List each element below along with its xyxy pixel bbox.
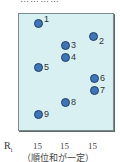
rank-sum-col-2: 15 bbox=[60, 141, 69, 151]
rank-point-label: 7 bbox=[100, 86, 105, 95]
rank-point-label: 1 bbox=[44, 15, 49, 24]
rank-point-4 bbox=[61, 53, 70, 62]
row-label-ri: Ri bbox=[4, 140, 12, 153]
cropped-title-text: ………… bbox=[20, 0, 112, 2]
rank-point-label: 8 bbox=[71, 98, 76, 107]
rank-point-label: 4 bbox=[71, 53, 76, 62]
rank-panel bbox=[18, 13, 114, 131]
rank-point-5 bbox=[34, 63, 43, 72]
rank-point-label: 3 bbox=[71, 41, 76, 50]
rank-point-label: 9 bbox=[44, 110, 49, 119]
rank-sum-col-1: 15 bbox=[33, 141, 42, 151]
rank-point-label: 6 bbox=[100, 74, 105, 83]
rank-point-1 bbox=[34, 19, 43, 28]
rank-point-label: 2 bbox=[99, 37, 104, 46]
rank-sum-col-3: 15 bbox=[88, 141, 97, 151]
rank-point-9 bbox=[34, 110, 43, 119]
caption: （順位和が一定） bbox=[22, 151, 94, 162]
rank-point-label: 5 bbox=[44, 63, 49, 72]
rank-point-6 bbox=[90, 74, 99, 83]
rank-point-2 bbox=[89, 32, 98, 41]
rank-point-7 bbox=[90, 86, 99, 95]
rank-point-3 bbox=[61, 41, 70, 50]
rank-point-8 bbox=[61, 98, 70, 107]
